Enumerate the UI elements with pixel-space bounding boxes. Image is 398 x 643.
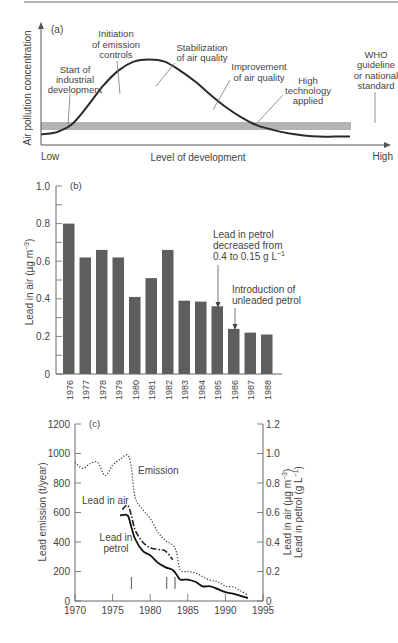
note-petrol-2: decreased from [213,240,282,251]
panel-c-chart: 1970197519801985199019950200400600800100… [37,418,304,616]
leader-init [117,61,120,94]
x-tick-label: 1982 [164,380,174,400]
y-tick-label: 1.0 [36,181,50,192]
note-who-4: standard [358,80,395,91]
x-tick-label: 1995 [252,605,275,616]
x-tick-label: 1980 [139,605,162,616]
y-tick-label-right: 1.0 [266,448,280,459]
y-axis-ticks-b: 00.20.40.60.81.0 [36,181,62,380]
bar-1987 [245,333,257,374]
x-tick-label: 1988 [263,380,273,400]
label-emission: Emission [138,465,179,476]
y-tick-label-left: 1200 [48,419,71,430]
note-stab-2: of air quality [176,52,227,63]
x-tick-label: 1981 [147,380,157,400]
note-init-3: controls [99,49,133,60]
note-improve-1: Improvement [231,61,287,72]
y-tick-label: 0.8 [36,218,50,229]
bar-1985 [212,306,224,374]
y-tick-label: 0.4 [36,293,50,304]
note-who-2: guideline [357,59,395,70]
y-tick-label-right: 0.8 [266,478,280,489]
note-unleaded-2: unleaded petrol [232,295,301,306]
panel-b-chart: 00.20.40.60.81.0 19761977197819791980198… [23,180,301,400]
y-tick-label-right: 0 [266,596,272,607]
panel-a-chart: (a) Air pollution concentration Low Leve… [22,22,398,163]
bar-1983 [179,301,191,374]
bar-1984 [195,302,207,374]
bar-1979 [113,257,125,374]
x-tick-label: 1975 [101,605,124,616]
x-tick-label: 1970 [64,605,87,616]
x-low-label: Low [41,151,60,162]
who-guideline-band [41,122,351,130]
bar-1978 [96,250,108,374]
x-tick-label: 1978 [98,380,108,400]
panel-c-ylabel-left: Lead emission (t/year) [37,463,48,562]
note-petrol-1: Lead in petrol [213,229,274,240]
axis-ticks-c: 1970197519801985199019950200400600800100… [48,419,281,617]
x-tick-label: 1977 [81,380,91,400]
x-axis-ticks-b: 1976197719781979198019811982198319841985… [65,380,273,400]
label-lead-in-petrol-1: Lead in [100,532,133,543]
x-tick-label: 1979 [114,380,124,400]
x-tick-label: 1985 [213,380,223,400]
note-hightech-3: applied [293,95,324,106]
y-tick-label-left: 1000 [48,448,71,459]
bar-1980 [129,297,141,374]
y-tick-label-right: 0.4 [266,537,280,548]
figure-canvas: (a) Air pollution concentration Low Leve… [0,0,398,643]
bar-1986 [228,329,240,374]
y-tick-label-right: 1.2 [266,419,280,430]
y-tick-label: 0 [44,369,50,380]
bar-1976 [63,224,75,374]
x-tick-label: 1990 [214,605,237,616]
x-tick-label: 1983 [180,380,190,400]
panel-c-ylabel-right-2: Lead in petrol (g L−1) [292,466,304,558]
label-lead-in-petrol-2: petrol [103,543,128,554]
y-tick-label-left: 200 [53,566,70,577]
bar-1981 [146,278,158,374]
leader-improve [213,80,230,110]
note-petrol-3: 0.4 to 0.15 g L−1 [213,250,285,262]
x-tick-label: 1987 [246,380,256,400]
x-tick-label: 1984 [197,380,207,400]
y-tick-label-left: 800 [53,478,70,489]
leader-start [68,94,70,126]
note-init-1: Initiation [98,28,133,39]
note-improve-2: of air quality [233,72,284,83]
x-tick-label: 1980 [131,380,141,400]
x-tick-label: 1976 [65,380,75,400]
y-tick-label-right: 0.6 [266,507,280,518]
x-axis-arrow-icon [384,142,391,148]
event-markers [131,577,175,589]
x-tick-label: 1986 [230,380,240,400]
x-high-label: High [372,151,393,162]
note-unleaded-1: Introduction of [232,284,296,295]
y-tick-label-left: 0 [64,596,70,607]
panel-b-tag: (b) [70,180,82,191]
panel-c-ylabel-right-1: Lead in air (µg m−3) [281,469,293,556]
y-axis-arrow-icon [38,22,44,29]
y-tick-label-left: 400 [53,537,70,548]
leader-hightech [258,95,283,122]
panel-a-tag: (a) [51,24,63,35]
y-tick-label-left: 600 [53,507,70,518]
panel-a-xlabel: Level of development [150,152,245,163]
y-tick-label: 0.6 [36,256,50,267]
bar-1982 [162,250,174,374]
x-tick-label: 1985 [177,605,200,616]
note-start-3: development [48,84,103,95]
panel-b-ylabel: Lead in air (µg m−3) [23,239,35,326]
leader-stab [156,63,175,86]
y-tick-label: 0.2 [36,331,50,342]
lead-in-petrol-line [120,515,248,598]
panel-a-ylabel: Air pollution concentration [22,30,33,145]
y-tick-label-right: 0.2 [266,566,280,577]
label-lead-in-air: Lead in air [82,495,129,506]
bar-1977 [80,257,92,374]
panel-c-tag: (c) [89,418,100,429]
bar-1988 [261,335,273,374]
